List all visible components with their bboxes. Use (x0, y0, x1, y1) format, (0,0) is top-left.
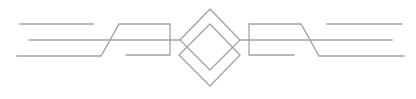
upper-diamond (180, 9, 240, 70)
lower-diamond (179, 24, 240, 86)
divider-shapes (17, 9, 404, 86)
decorative-divider (0, 0, 416, 99)
